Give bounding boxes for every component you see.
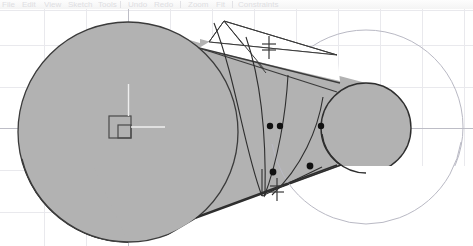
sketch-point: [307, 163, 314, 170]
toolbar-item[interactable]: View: [44, 0, 61, 9]
toolbar-separator: [180, 1, 181, 8]
toolbar-item[interactable]: Zoom: [188, 0, 208, 9]
toolbar-item[interactable]: Fit: [216, 0, 225, 9]
toolbar-item[interactable]: Edit: [22, 0, 36, 9]
toolbar-item[interactable]: Undo: [128, 0, 147, 9]
toolbar-clipped[interactable]: File Edit View Sketch Tools Undo Redo Zo…: [0, 0, 473, 9]
sketch-viewport[interactable]: [0, 9, 473, 246]
sketch-point: [267, 123, 273, 129]
sketch-point: [270, 169, 277, 176]
cad-application-window: File Edit View Sketch Tools Undo Redo Zo…: [0, 0, 473, 246]
toolbar-item[interactable]: Tools: [98, 0, 117, 9]
toolbar-item[interactable]: Constraints: [238, 0, 278, 9]
toolbar-separator: [120, 1, 121, 8]
sketch-point: [277, 123, 283, 129]
toolbar-item[interactable]: File: [2, 0, 15, 9]
toolbar-item[interactable]: Redo: [154, 0, 173, 9]
toolbar-separator: [232, 1, 233, 8]
toolbar-item[interactable]: Sketch: [68, 0, 92, 9]
sketch-point: [318, 123, 324, 129]
